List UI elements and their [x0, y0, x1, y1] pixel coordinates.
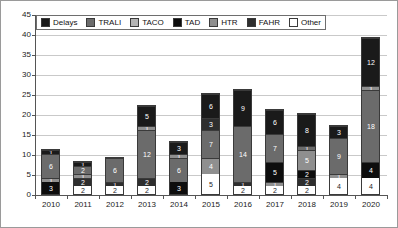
y-tick-label: 10 — [22, 151, 31, 159]
stacked-bar[interactable]: 54736 — [201, 93, 220, 195]
stacked-bar[interactable]: 21576 — [265, 109, 284, 195]
bar-segment-other[interactable]: 4 — [330, 178, 347, 194]
bar-segment-trali[interactable]: 9 — [330, 138, 347, 174]
bar-segment-other[interactable]: 2 — [266, 186, 283, 194]
bar-2012[interactable]: 216 — [100, 15, 129, 195]
bar-segment-trali[interactable]: 6 — [170, 158, 187, 182]
bar-segment-fahr[interactable]: 2 — [74, 178, 91, 186]
bar-segment-trali[interactable]: 6 — [106, 158, 123, 182]
bar-segment-tad[interactable]: 2 — [298, 170, 315, 178]
legend-label: HTR — [221, 19, 237, 27]
bar-segment-tad[interactable]: 3 — [42, 182, 59, 194]
x-tick-labels: 2010201120122013201420152016201720182019… — [35, 201, 387, 209]
bar-segment-other[interactable]: 2 — [234, 186, 251, 194]
bar-segment-tad[interactable]: 4 — [362, 162, 379, 178]
bar-segment-trali[interactable]: 18 — [362, 90, 379, 162]
bar-segment-htr[interactable]: 4 — [202, 158, 219, 174]
stacked-bar[interactable]: 21149 — [233, 89, 252, 195]
bar-segment-delays[interactable]: 8 — [298, 114, 315, 146]
x-tick-label-2014: 2014 — [164, 201, 193, 209]
bar-segment-tad[interactable]: 3 — [170, 182, 187, 194]
bar-2010[interactable]: 3161 — [36, 15, 65, 195]
legend-label: TAD — [185, 19, 200, 27]
bar-segment-trali[interactable]: 14 — [234, 126, 251, 182]
bar-segment-delays[interactable]: 9 — [234, 90, 251, 126]
legend-swatch-icon — [209, 18, 218, 27]
stacked-bar[interactable]: 4193 — [329, 125, 348, 195]
x-tick-label-2020: 2020 — [356, 201, 385, 209]
y-tick-label: 40 — [22, 31, 31, 39]
bar-segment-trali[interactable]: 7 — [266, 134, 283, 162]
bar-2014[interactable]: 3613 — [164, 15, 193, 195]
bar-segment-delays[interactable]: 3 — [170, 142, 187, 154]
bar-2013[interactable]: 221215 — [132, 15, 161, 195]
bar-segment-other[interactable]: 2 — [138, 186, 155, 194]
legend-item-delays[interactable]: Delays — [41, 18, 77, 27]
y-tick-label: 20 — [22, 111, 31, 119]
x-tick-marks — [35, 195, 387, 199]
bar-2016[interactable]: 21149 — [228, 15, 257, 195]
bar-segment-tad[interactable]: 5 — [266, 162, 283, 182]
bar-2019[interactable]: 4193 — [324, 15, 353, 195]
x-tick-mark — [131, 195, 132, 199]
stacked-bar[interactable]: 3613 — [169, 141, 188, 195]
legend-swatch-icon — [173, 18, 182, 27]
bar-segment-other[interactable]: 2 — [74, 186, 91, 194]
bar-segment-delays[interactable]: 6 — [202, 94, 219, 118]
legend-item-htr[interactable]: HTR — [209, 18, 237, 27]
bar-segment-fahr[interactable]: 3 — [202, 118, 219, 130]
x-tick-mark — [35, 195, 36, 199]
bar-segment-other[interactable]: 2 — [106, 186, 123, 194]
bar-segment-htr[interactable]: 5 — [298, 150, 315, 170]
x-tick-mark — [67, 195, 68, 199]
bar-segment-fahr[interactable]: 2 — [138, 178, 155, 186]
bar-segment-other[interactable]: 2 — [298, 186, 315, 194]
legend-item-tad[interactable]: TAD — [173, 18, 200, 27]
bar-2011[interactable]: 22121 — [68, 15, 97, 195]
chart-legend: DelaysTRALITACOTADHTRFAHROther — [36, 15, 326, 30]
bar-segment-delays[interactable]: 3 — [330, 126, 347, 138]
legend-swatch-icon — [130, 18, 139, 27]
x-tick-label-2011: 2011 — [68, 201, 97, 209]
legend-label: Other — [301, 19, 321, 27]
legend-item-taco[interactable]: TACO — [130, 18, 164, 27]
bar-segment-other[interactable]: 4 — [362, 178, 379, 194]
legend-item-trali[interactable]: TRALI — [86, 18, 121, 27]
legend-label: FAHR — [259, 19, 280, 27]
x-tick-mark — [323, 195, 324, 199]
legend-item-other[interactable]: Other — [289, 18, 321, 27]
bar-segment-fahr[interactable]: 2 — [298, 178, 315, 186]
bar-segment-other[interactable]: 5 — [202, 174, 219, 194]
bar-segment-trali[interactable]: 12 — [138, 130, 155, 178]
bar-2018[interactable]: 222518 — [292, 15, 321, 195]
bar-segment-trali[interactable]: 6 — [42, 154, 59, 178]
bar-2020[interactable]: 4418112 — [356, 15, 385, 195]
bar-2017[interactable]: 21576 — [260, 15, 289, 195]
stacked-bar[interactable]: 4418112 — [361, 37, 380, 195]
bar-segment-trali[interactable]: 2 — [74, 166, 91, 174]
legend-label: TACO — [142, 19, 164, 27]
stacked-bar[interactable]: 222518 — [297, 113, 316, 195]
bar-segment-delays[interactable]: 6 — [266, 110, 283, 134]
bar-segment-trali[interactable]: 7 — [202, 130, 219, 158]
bar-segment-delays[interactable]: 5 — [138, 106, 155, 126]
x-tick-label-2013: 2013 — [132, 201, 161, 209]
bar-group: 3161221212162212153613547362114921576222… — [35, 15, 387, 195]
y-tick-label: 0 — [27, 191, 31, 199]
x-tick-label-2018: 2018 — [292, 201, 321, 209]
x-tick-mark — [355, 195, 356, 199]
plot-area: 051015202530354045 316122121216221215361… — [35, 15, 387, 195]
legend-label: TRALI — [98, 19, 121, 27]
bar-segment-delays[interactable]: 12 — [362, 38, 379, 86]
x-tick-mark — [99, 195, 100, 199]
legend-item-fahr[interactable]: FAHR — [247, 18, 280, 27]
y-tick-label: 15 — [22, 131, 31, 139]
x-tick-mark — [259, 195, 260, 199]
stacked-bar[interactable]: 216 — [105, 157, 124, 195]
bar-2015[interactable]: 54736 — [196, 15, 225, 195]
stacked-bar[interactable]: 221215 — [137, 105, 156, 195]
legend-swatch-icon — [289, 18, 298, 27]
legend-swatch-icon — [41, 18, 50, 27]
stacked-bar[interactable]: 3161 — [41, 149, 60, 195]
stacked-bar[interactable]: 22121 — [73, 161, 92, 195]
